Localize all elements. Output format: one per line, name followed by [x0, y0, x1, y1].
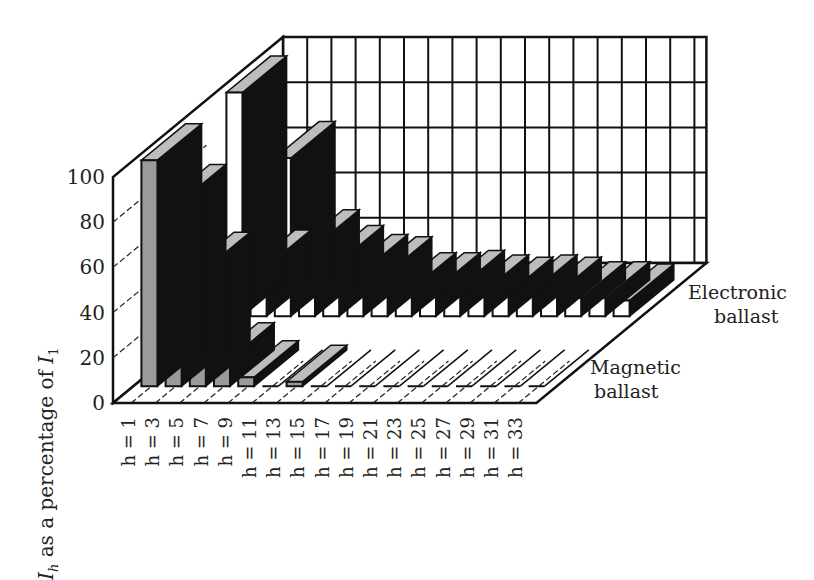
legend-electronic-ballast: Electronic ballast: [688, 280, 787, 328]
x-tick-label: h = 29: [457, 417, 478, 478]
x-tick-label: h = 15: [287, 417, 308, 478]
y-tick-label: 100: [67, 165, 105, 189]
x-tick-label: h = 17: [312, 417, 333, 478]
y-axis-label: Ih as a percentage of I1: [34, 320, 74, 580]
y-tick-label: 20: [80, 346, 105, 370]
x-tick-label: h = 3: [142, 417, 163, 467]
x-tick-label: h = 31: [481, 417, 502, 478]
y-tick-label: 60: [80, 255, 105, 279]
x-tick-label: h = 23: [384, 417, 405, 478]
x-tick-label: h = 5: [166, 417, 187, 467]
x-tick-label: h = 19: [336, 417, 357, 478]
x-tick-label: h = 7: [191, 417, 212, 467]
x-tick-label: h = 9: [215, 417, 236, 467]
x-tick-label: h = 13: [263, 417, 284, 478]
x-tick-label: h = 25: [408, 417, 429, 478]
y-tick-label: 0: [92, 391, 105, 415]
x-tick-label: h = 21: [360, 417, 381, 478]
x-tick-label: h = 27: [433, 417, 454, 478]
x-tick-label: h = 1: [118, 417, 139, 467]
legend-magnetic-ballast: Magnetic ballast: [590, 355, 681, 403]
x-tick-label: h = 11: [239, 417, 260, 478]
y-tick-label: 80: [80, 210, 105, 234]
y-tick-label: 40: [80, 301, 105, 325]
bar: [141, 124, 201, 386]
x-tick-label: h = 33: [505, 417, 526, 478]
